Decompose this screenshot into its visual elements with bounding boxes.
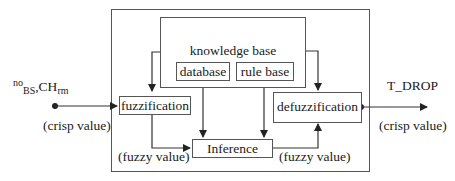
defuzzification-label: defuzzification [273, 100, 362, 114]
fuzzy-value-label-right: (fuzzy value) [279, 150, 351, 164]
database-label: database [176, 65, 230, 79]
input-var1-sup: no [13, 77, 23, 88]
fuzzy-value-label-left: (fuzzy value) [118, 150, 190, 164]
input-var2-sub: rm [57, 85, 68, 96]
output-crisp-annotation: (crisp value) [379, 119, 447, 133]
input-variables-label: noBS,CHrm [13, 78, 68, 96]
output-variable-label: T_DROP [387, 79, 438, 93]
knowledge-base-label: knowledge base [160, 44, 306, 58]
inference-label: Inference [192, 142, 273, 156]
input-var2: CH [39, 79, 58, 94]
fuzzification-label: fuzzification [119, 99, 191, 113]
input-var1-sub: BS [23, 85, 35, 96]
rule-base-label: rule base [236, 65, 294, 79]
fuzzy-controller-diagram: knowledge base database rule base fuzzif… [0, 0, 455, 181]
input-crisp-annotation: (crisp value) [43, 119, 111, 133]
